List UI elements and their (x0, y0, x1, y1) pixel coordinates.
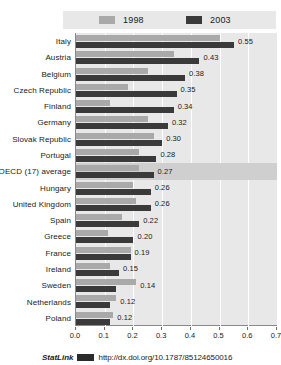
bar-value-label: 0.12 (117, 313, 132, 322)
x-tick-label: 0.4 (185, 331, 195, 340)
chart-row: 0.26 (76, 180, 277, 197)
bar-1998 (76, 35, 220, 41)
x-tick-mark (276, 327, 277, 330)
bar-value-label: 0.30 (166, 134, 181, 143)
category-label: Sweden (0, 277, 71, 294)
chart-row: 0.27 (76, 163, 277, 180)
category-label: Hungary (0, 180, 71, 197)
category-label: Italy (0, 33, 71, 50)
bar-value-label: 0.26 (155, 183, 170, 192)
bar-2003 (76, 319, 110, 325)
category-label: Belgium (0, 66, 71, 83)
legend-label-2003: 2003 (210, 15, 231, 25)
x-axis-ticks: 0.00.10.20.30.40.50.60.7 (75, 327, 276, 341)
category-label: Poland (0, 310, 71, 327)
chart-figure: 1998 2003 ItalyAustriaBelgiumCzech Repub… (0, 0, 281, 365)
chart-row: 0.38 (76, 66, 277, 83)
bar-value-label: 0.26 (155, 199, 170, 208)
x-tick-mark (247, 327, 248, 330)
legend-item-2003: 2003 (186, 11, 231, 29)
category-label: Ireland (0, 261, 71, 278)
bar-2003 (76, 254, 131, 260)
bar-value-label: 0.35 (181, 85, 196, 94)
bar-value-label: 0.12 (120, 297, 135, 306)
x-tick-label: 0.2 (127, 331, 137, 340)
category-label: Czech Republic (0, 82, 71, 99)
bar-1998 (76, 263, 110, 269)
chart-row: 0.43 (76, 49, 277, 66)
bar-1998 (76, 247, 131, 253)
bar-1998 (76, 133, 154, 139)
chart-row: 0.20 (76, 228, 277, 245)
bar-2003 (76, 140, 162, 146)
chart-row: 0.26 (76, 196, 277, 213)
bar-2003 (76, 123, 168, 129)
chart-row: 0.35 (76, 82, 277, 99)
x-tick-mark (104, 327, 105, 330)
bar-2003 (76, 156, 156, 162)
bar-1998 (76, 214, 122, 220)
bar-2003 (76, 270, 119, 276)
x-tick-label: 0.1 (98, 331, 108, 340)
legend-swatch-2003-icon (186, 16, 202, 24)
bar-1998 (76, 84, 128, 90)
bar-value-label: 0.19 (135, 248, 150, 257)
bar-1998 (76, 100, 110, 106)
x-tick-label: 0.0 (70, 331, 80, 340)
statlink-label: StatLink (42, 353, 74, 362)
plot-area: 0.550.430.380.350.340.320.300.280.270.26… (75, 33, 277, 326)
x-tick-mark (190, 327, 191, 330)
bar-value-label: 0.28 (160, 150, 175, 159)
chart-row: 0.12 (76, 310, 277, 327)
bar-1998 (76, 68, 148, 74)
bar-1998 (76, 116, 148, 122)
category-label: Finland (0, 98, 71, 115)
chart-row: 0.12 (76, 293, 277, 310)
bar-1998 (76, 295, 116, 301)
doi-link[interactable]: http://dx.doi.org/10.1787/85124650016 (99, 353, 233, 362)
category-label: OECD (17) average (0, 163, 71, 180)
legend-label-1998: 1998 (123, 15, 144, 25)
bar-1998 (76, 312, 113, 318)
bar-value-label: 0.43 (203, 53, 218, 62)
bar-value-label: 0.22 (143, 216, 158, 225)
bar-2003 (76, 172, 154, 178)
gridline (277, 33, 278, 326)
chart-row: 0.34 (76, 98, 277, 115)
bar-2003 (76, 75, 185, 81)
x-tick-mark (219, 327, 220, 330)
x-tick-mark (75, 327, 76, 330)
category-label: Germany (0, 114, 71, 131)
x-tick-label: 0.3 (156, 331, 166, 340)
chart-row: 0.15 (76, 261, 277, 278)
bar-value-label: 0.14 (140, 281, 155, 290)
x-tick-label: 0.6 (242, 331, 252, 340)
bar-value-label: 0.34 (178, 102, 193, 111)
bar-2003 (76, 302, 110, 308)
bar-2003 (76, 107, 174, 113)
x-tick-label: 0.5 (213, 331, 223, 340)
category-label: Portugal (0, 147, 71, 164)
x-tick-mark (132, 327, 133, 330)
bar-2003 (76, 205, 151, 211)
category-label: Netherlands (0, 293, 71, 310)
bar-1998 (76, 198, 136, 204)
bar-2003 (76, 58, 199, 64)
category-label: Greece (0, 228, 71, 245)
category-label: Austria (0, 49, 71, 66)
bar-1998 (76, 230, 108, 236)
category-label: Spain (0, 212, 71, 229)
x-tick-label: 0.7 (271, 331, 281, 340)
category-label: Slovak Republic (0, 131, 71, 148)
category-label: United Kingdom (0, 196, 71, 213)
chart-legend: 1998 2003 (63, 11, 276, 29)
statlink-badge-icon (77, 354, 94, 361)
bar-1998 (76, 51, 174, 57)
bar-2003 (76, 91, 177, 97)
bar-value-label: 0.55 (238, 37, 253, 46)
bar-2003 (76, 286, 116, 292)
category-label: France (0, 245, 71, 262)
bar-value-label: 0.15 (123, 264, 138, 273)
bar-1998 (76, 182, 133, 188)
bar-2003 (76, 189, 151, 195)
